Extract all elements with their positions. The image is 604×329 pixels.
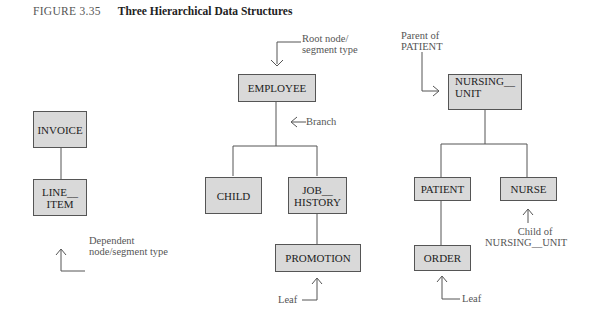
annotation-branch: Branch xyxy=(306,116,336,127)
node-nursing-unit: NURSING__ UNIT xyxy=(448,74,522,110)
annotation-line: segment type xyxy=(302,44,358,55)
annotation-child-of: Child of NURSING__UNIT xyxy=(485,226,567,248)
annotation-line: Leaf xyxy=(278,294,297,305)
annotation-parent: Parent of PATIENT xyxy=(401,30,443,52)
node-child: CHILD xyxy=(205,177,262,214)
node-label: PROMOTION xyxy=(285,252,350,264)
annotation-line: Child of xyxy=(503,226,567,237)
node-label: CHILD xyxy=(217,190,251,202)
annotation-line: Leaf xyxy=(462,293,481,304)
node-label: INVOICE xyxy=(37,124,82,136)
annotation-dependent: Dependent node/segment type xyxy=(89,235,168,257)
annotation-line: NURSING__UNIT xyxy=(485,237,567,248)
node-label: UNIT xyxy=(455,87,481,99)
node-label: HISTORY xyxy=(294,196,341,208)
node-employee: EMPLOYEE xyxy=(238,74,316,102)
node-nurse: NURSE xyxy=(500,177,557,201)
annotation-line: PATIENT xyxy=(401,41,443,52)
annotation-leaf-2: Leaf xyxy=(462,293,481,304)
node-invoice: INVOICE xyxy=(33,111,87,148)
node-label: ORDER xyxy=(424,252,461,264)
node-label: LINE__ xyxy=(42,186,78,198)
node-job-history: JOB__ HISTORY xyxy=(288,177,347,214)
node-label: ITEM xyxy=(47,198,74,210)
annotation-line: node/segment type xyxy=(89,246,168,257)
node-label: NURSING__ xyxy=(455,75,515,87)
node-promotion: PROMOTION xyxy=(275,244,361,272)
node-label: JOB__ xyxy=(302,184,333,196)
annotation-line: Parent of xyxy=(401,30,443,41)
node-label: NURSE xyxy=(510,183,546,195)
node-order: ORDER xyxy=(414,245,471,271)
node-label: PATIENT xyxy=(421,183,465,195)
node-label: EMPLOYEE xyxy=(248,82,307,94)
annotation-root: Root node/ segment type xyxy=(302,33,358,55)
node-line-item: LINE__ ITEM xyxy=(33,179,87,216)
annotation-line: Root node/ xyxy=(302,33,358,44)
annotation-line: Dependent xyxy=(89,235,168,246)
annotation-leaf: Leaf xyxy=(278,294,297,305)
annotation-line: Branch xyxy=(306,116,336,127)
node-patient: PATIENT xyxy=(414,177,471,201)
